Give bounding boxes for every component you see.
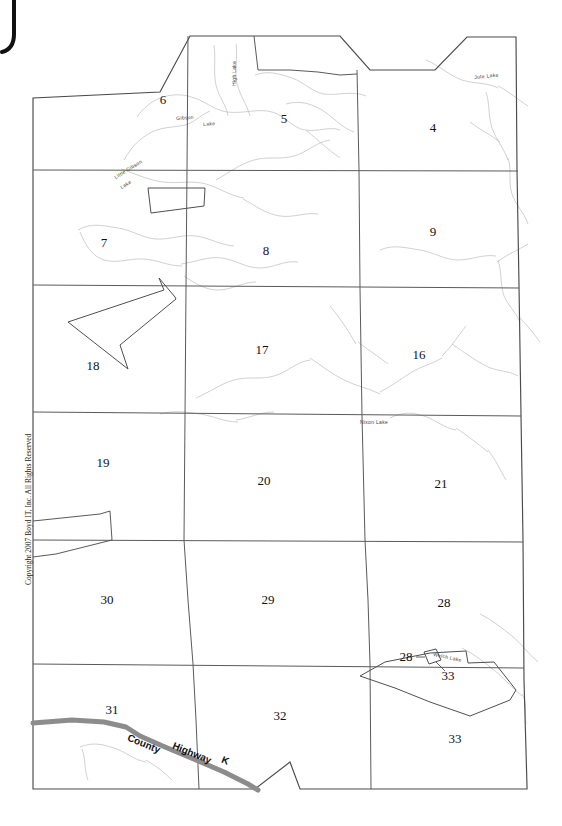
section-label-33: 33 — [449, 731, 462, 747]
section-label-9: 9 — [430, 224, 437, 240]
section-label-16: 16 — [413, 347, 426, 363]
section-label-7: 7 — [101, 235, 108, 251]
callout-label-33: 33 — [442, 668, 455, 684]
section-label-30: 30 — [101, 592, 114, 608]
section-label-17: 17 — [256, 342, 269, 358]
hydro-label-lake: Lake — [203, 120, 215, 127]
section-label-31: 31 — [106, 702, 119, 718]
hydro-label-nixon-lake: Nixon Lake — [360, 419, 388, 425]
callout-label-28: 28 — [400, 649, 413, 665]
hydro-label-high-lake: High Lake — [231, 61, 237, 86]
section-label-18: 18 — [87, 358, 100, 374]
copyright-notice: Copyright 2007 Boyd IT, Inc. All Rights … — [24, 434, 33, 585]
section-label-8: 8 — [263, 243, 270, 259]
section-label-5: 5 — [281, 111, 288, 127]
section-label-4: 4 — [430, 120, 437, 136]
section-label-6: 6 — [160, 92, 167, 108]
section-label-28: 28 — [438, 595, 451, 611]
section-label-20: 20 — [258, 473, 271, 489]
section-label-29: 29 — [262, 592, 275, 608]
hydro-label-gibson: Gibson — [176, 114, 194, 121]
section-label-19: 19 — [97, 455, 110, 471]
section-label-21: 21 — [435, 476, 448, 492]
corner-mark-j — [0, 0, 40, 56]
section-label-32: 32 — [274, 708, 287, 724]
